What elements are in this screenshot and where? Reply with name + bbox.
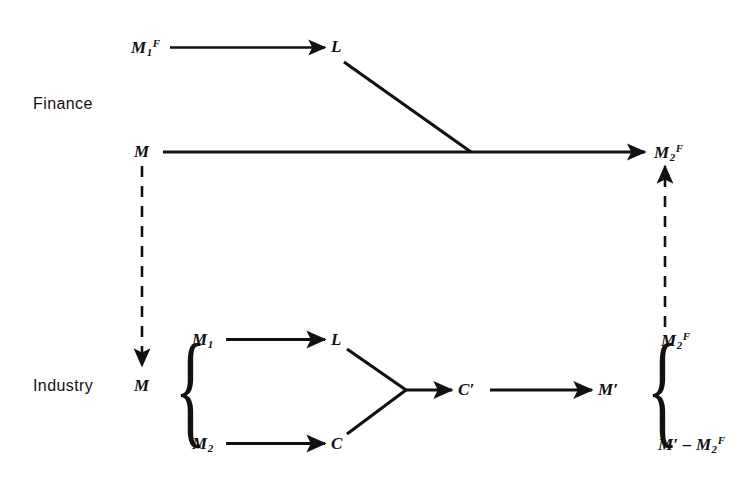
node-industry-cprime: C′ — [458, 381, 475, 398]
section-label-finance: Finance — [33, 95, 93, 113]
node-industry-l-base: L — [331, 330, 342, 349]
node-industry-m1: M1 — [192, 331, 213, 350]
node-industry-m1-base: M — [192, 330, 207, 349]
node-finance-l: L — [331, 38, 342, 55]
node-output-remainder-base: M′ – M — [658, 435, 711, 454]
node-output-m2f-base: M — [661, 331, 676, 350]
edge-l-to-junction — [344, 62, 471, 152]
node-industry-l: L — [331, 331, 342, 348]
node-industry-m1-sub: 1 — [208, 338, 214, 350]
node-output-remainder-sup: F — [718, 434, 726, 446]
node-output-remainder: M′ – M2F — [658, 435, 725, 455]
node-finance-m1f: M1F — [131, 38, 160, 58]
node-industry-mprime: M′ — [598, 381, 618, 398]
node-industry-m2-sub: 2 — [208, 442, 214, 454]
node-output-m2f-sup: F — [683, 330, 691, 342]
diagram-lines-layer — [0, 0, 755, 490]
node-finance-m1f-sup: F — [153, 37, 161, 49]
node-finance-m2f-base: M — [654, 143, 669, 162]
node-industry-m2: M2 — [192, 435, 213, 454]
edge-c-to-merge — [347, 390, 406, 434]
node-finance-m-base: M — [134, 142, 149, 161]
node-industry-m: M — [134, 377, 149, 394]
node-industry-c: C — [331, 435, 343, 452]
node-finance-m2f: M2F — [654, 143, 683, 163]
section-label-industry: Industry — [33, 377, 93, 395]
node-output-m2f-sub: 2 — [677, 339, 683, 351]
node-finance-m2f-sup: F — [676, 142, 684, 154]
node-finance-m2f-sub: 2 — [670, 151, 676, 163]
node-finance-m1f-base: M — [131, 38, 146, 57]
node-output-remainder-sub: 2 — [712, 443, 718, 455]
node-industry-m2-base: M — [192, 434, 207, 453]
node-industry-c-base: C — [331, 434, 343, 453]
edge-l-to-merge — [347, 349, 406, 390]
node-finance-l-base: L — [331, 37, 342, 56]
node-industry-cprime-base: C′ — [458, 380, 475, 399]
node-output-m2f: M2F — [661, 331, 690, 351]
node-finance-m: M — [134, 143, 149, 160]
diagram-canvas: Finance Industry M1F L M M2F M { M1 M2 L… — [0, 0, 755, 490]
node-industry-mprime-base: M′ — [598, 380, 618, 399]
node-finance-m1f-sub: 1 — [147, 46, 153, 58]
node-industry-m-base: M — [134, 376, 149, 395]
